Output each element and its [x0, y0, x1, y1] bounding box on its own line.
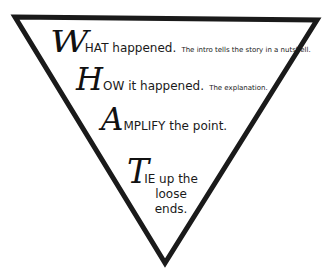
tie-continued-2: ends.	[143, 202, 199, 217]
initial-a: A	[101, 104, 123, 135]
amplify-line: AMPLIFY the point.	[101, 104, 227, 135]
what-main-text: HAT happened.	[85, 41, 176, 55]
amplify-main-text: MPLIFY the point.	[123, 119, 227, 133]
tie-continued-1: loose	[143, 187, 199, 202]
what-detail-text: The intro tells the story in a nutshell.	[181, 46, 310, 54]
how-main-text: OW it happened.	[103, 79, 204, 93]
how-detail-text: The explanation.	[209, 84, 268, 92]
initial-h: H	[76, 64, 103, 95]
tie-text-block: IE up the loose ends.	[143, 172, 199, 217]
how-line: HOW it happened. The explanation.	[76, 64, 268, 95]
what-line: WHAT happened. The intro tells the story…	[50, 27, 311, 57]
tie-main-text: IE up the	[143, 172, 199, 187]
initial-w: W	[50, 27, 89, 57]
